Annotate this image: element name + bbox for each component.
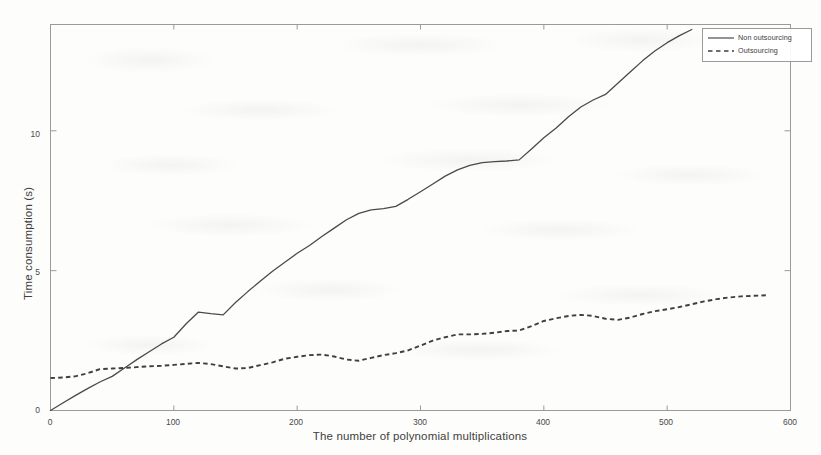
legend-swatch-solid-icon <box>708 35 734 41</box>
series-line-non-outsourcing <box>51 30 692 411</box>
legend-item-outsourcing: Outsourcing <box>708 46 778 55</box>
legend-item-non-outsourcing: Non outsourcing <box>708 33 792 42</box>
plot-area <box>0 0 821 455</box>
figure-canvas: Time consumption (s) 0 5 10 0 100 200 30… <box>0 0 821 455</box>
legend-swatch-dashed-icon <box>708 48 734 54</box>
legend-label-outsourcing: Outsourcing <box>738 46 778 55</box>
series-line-outsourcing <box>51 295 766 378</box>
axis-frame <box>51 25 791 411</box>
axis-ticks <box>51 25 791 411</box>
legend-box: Non outsourcing Outsourcing <box>702 28 812 62</box>
legend-label-non-outsourcing: Non outsourcing <box>738 33 792 42</box>
